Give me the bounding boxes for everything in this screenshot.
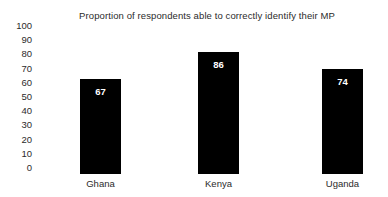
x-axis-category-label: Kenya [184, 178, 253, 189]
chart-title: Proportion of respondents able to correc… [0, 10, 388, 21]
y-axis: 1009080706050403020100 [0, 26, 32, 178]
bar-group: 74Uganda [322, 69, 363, 174]
bar-value-label: 67 [80, 86, 121, 97]
y-axis-tick-label: 20 [0, 135, 32, 145]
y-axis-tick-label: 90 [0, 35, 32, 45]
y-axis-tick-label: 50 [0, 92, 32, 102]
bar-group: 67Ghana [80, 79, 121, 174]
bar-chart: Proportion of respondents able to correc… [0, 0, 388, 197]
y-axis-tick-label: 40 [0, 106, 32, 116]
y-axis-tick-label: 70 [0, 64, 32, 74]
y-axis-tick-label: 100 [0, 21, 32, 31]
y-axis-tick-label: 10 [0, 149, 32, 159]
bar-value-label: 74 [322, 76, 363, 87]
bar-group: 86Kenya [198, 52, 239, 174]
y-axis-tick-label: 0 [0, 163, 32, 173]
x-axis-category-label: Uganda [308, 178, 377, 189]
bar-value-label: 86 [198, 59, 239, 70]
y-axis-tick-label: 60 [0, 78, 32, 88]
plot-area: 67Ghana86Kenya74Uganda [36, 32, 388, 174]
y-axis-tick-label: 80 [0, 49, 32, 59]
x-axis-category-label: Ghana [66, 178, 135, 189]
y-axis-tick-label: 30 [0, 120, 32, 130]
bar [198, 52, 239, 174]
